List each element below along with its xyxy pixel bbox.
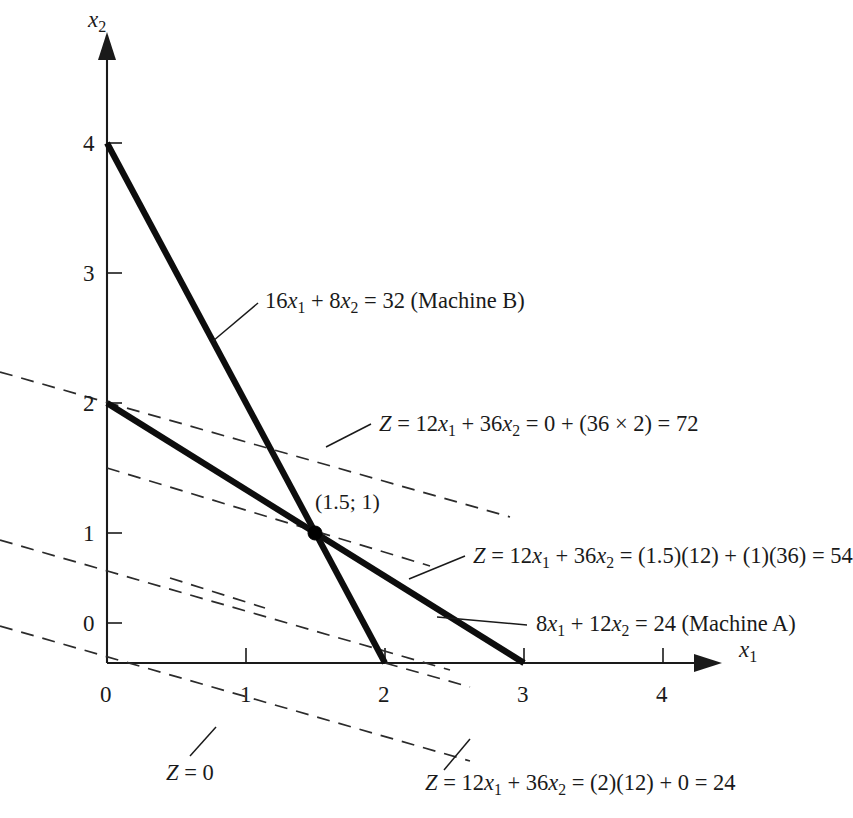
x-tick-label-1: 1: [240, 683, 252, 706]
leader-machine-a: [437, 617, 527, 625]
iso-line-z54: [107, 468, 430, 566]
machine-b-annotation: 16x1 + 8x2 = 32 (Machine B): [265, 290, 525, 315]
machine-b-line: [107, 143, 385, 663]
machine-a-annotation: 8x1 + 12x2 = 24 (Machine A): [536, 613, 796, 638]
z0-annotation: Z = 0: [166, 762, 214, 785]
leader-z0: [190, 727, 216, 756]
iso-line-z24: [0, 540, 450, 670]
x-tick-label-4: 4: [656, 683, 668, 706]
leader-machine-b: [213, 303, 258, 341]
z54-annotation: Z = 12x1 + 36x2 = (1.5)(12) + (1)(36) = …: [473, 545, 853, 570]
x-axis-label: x1: [739, 638, 757, 665]
iso-line-z0: [0, 626, 470, 761]
leader-z72: [326, 424, 371, 447]
x-tick-label-2: 2: [378, 683, 390, 706]
iso-line-z24-lower: [385, 663, 470, 687]
y-tick-label-4: 4: [83, 132, 95, 155]
y-axis-arrowhead: [98, 32, 116, 60]
x-axis-ticks: [246, 648, 663, 663]
axes-group: [98, 32, 722, 672]
y-tick-label-3: 3: [83, 262, 95, 285]
y-axis-label: x2: [88, 8, 106, 35]
y-tick-label-2: 2: [83, 392, 95, 415]
z24-annotation: Z = 12x1 + 36x2 = (2)(12) + 0 = 24: [425, 772, 735, 797]
optimal-vertex-label: (1.5; 1): [315, 491, 380, 513]
x-tick-label-3: 3: [517, 683, 529, 706]
optimal-vertex-dot: [308, 526, 322, 540]
constraint-lines: [107, 143, 524, 663]
x-tick-label-0: 0: [100, 683, 112, 706]
x-axis-arrowhead: [694, 654, 722, 672]
y-tick-label-1: 1: [83, 522, 95, 545]
y-tick-label-0: 0: [83, 612, 95, 635]
leader-z54: [409, 556, 465, 579]
z72-annotation: Z = 12x1 + 36x2 = 0 + (36 × 2) = 72: [379, 413, 698, 438]
y-axis-ticks: [107, 143, 122, 623]
